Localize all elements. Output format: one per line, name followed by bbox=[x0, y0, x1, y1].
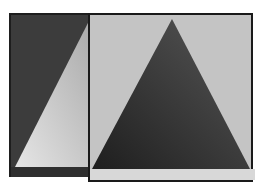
dark-triangle bbox=[92, 19, 250, 169]
front-panel bbox=[88, 13, 253, 182]
back-panel-graphic bbox=[11, 15, 95, 179]
back-panel bbox=[9, 13, 93, 177]
front-panel-graphic bbox=[90, 15, 255, 184]
light-triangle bbox=[15, 17, 93, 167]
